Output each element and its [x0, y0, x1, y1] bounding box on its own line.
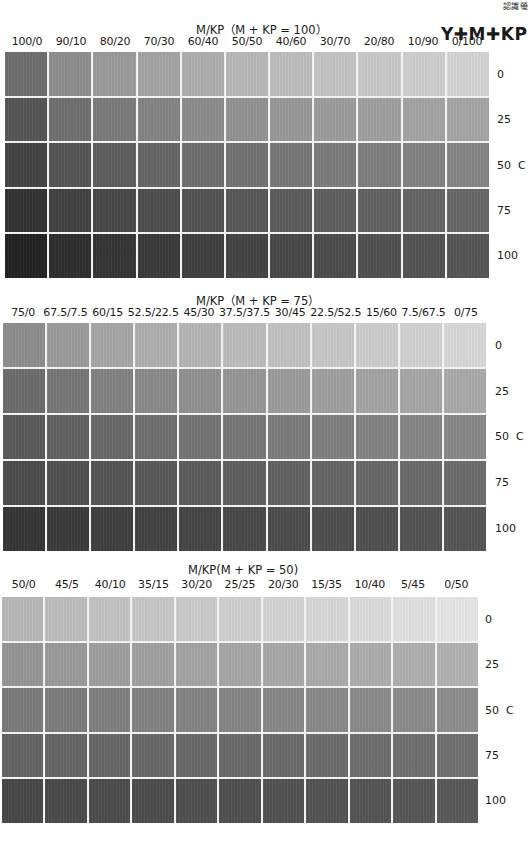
color-swatch: [356, 507, 398, 551]
color-swatch: [306, 779, 347, 823]
column-label: 60/15: [87, 306, 127, 319]
swatch-grid: [5, 52, 489, 278]
color-swatch: [400, 369, 442, 413]
color-swatch: [138, 234, 180, 278]
color-swatch: [219, 779, 260, 823]
column-labels: 75/067.5/7.560/1552.5/22.545/3037.5/37.5…: [3, 306, 486, 319]
column-label: 45/5: [45, 578, 88, 591]
row-label: 100: [497, 233, 526, 278]
color-swatch: [182, 98, 224, 142]
color-swatch: [176, 688, 217, 732]
column-label: 35/15: [132, 578, 175, 591]
color-swatch: [226, 98, 268, 142]
color-swatch: [2, 643, 43, 687]
color-swatch: [47, 369, 89, 413]
color-swatch: [314, 98, 356, 142]
color-swatch: [93, 98, 135, 142]
color-swatch: [176, 734, 217, 778]
color-swatch: [444, 369, 486, 413]
column-label: 75/0: [3, 306, 43, 319]
color-swatch: [226, 189, 268, 233]
color-swatch: [45, 779, 86, 823]
column-label: 22.5/52.5: [310, 306, 361, 319]
color-swatch: [350, 643, 391, 687]
column-label: 37.5/37.5: [219, 306, 270, 319]
color-swatch: [268, 323, 310, 367]
color-swatch: [263, 643, 304, 687]
color-swatch: [350, 734, 391, 778]
color-swatch: [91, 461, 133, 505]
color-swatch: [263, 688, 304, 732]
color-swatch: [135, 369, 177, 413]
color-swatch: [350, 597, 391, 641]
color-swatch: [91, 507, 133, 551]
color-swatch: [138, 143, 180, 187]
color-swatch: [5, 98, 47, 142]
color-swatch: [403, 143, 445, 187]
color-swatch: [138, 52, 180, 96]
color-swatch: [5, 143, 47, 187]
color-swatch: [447, 52, 489, 96]
column-label: 80/20: [93, 35, 137, 48]
color-swatch: [358, 189, 400, 233]
column-label: 45/30: [179, 306, 219, 319]
column-label: 50/0: [2, 578, 45, 591]
color-swatch: [3, 461, 45, 505]
column-label: 20/30: [262, 578, 305, 591]
color-swatch: [393, 688, 434, 732]
color-swatch: [176, 643, 217, 687]
column-label: 10/90: [401, 35, 445, 48]
color-swatch: [270, 98, 312, 142]
color-swatch: [49, 52, 91, 96]
color-swatch: [314, 52, 356, 96]
color-swatch: [437, 779, 478, 823]
column-label: 7.5/67.5: [402, 306, 446, 319]
color-swatch: [306, 734, 347, 778]
column-label: 15/60: [361, 306, 401, 319]
color-swatch: [45, 643, 86, 687]
color-swatch: [268, 461, 310, 505]
color-swatch: [182, 52, 224, 96]
row-label: 75: [485, 733, 514, 778]
row-labels: 02550 C75100: [495, 323, 524, 551]
row-label: 25: [485, 642, 514, 687]
color-swatch: [89, 688, 130, 732]
column-label: 67.5/7.5: [43, 306, 87, 319]
color-swatch: [356, 415, 398, 459]
color-swatch: [312, 369, 354, 413]
color-swatch: [182, 189, 224, 233]
color-swatch: [358, 98, 400, 142]
color-swatch: [223, 507, 265, 551]
color-swatch: [400, 415, 442, 459]
color-swatch: [403, 234, 445, 278]
color-swatch: [393, 597, 434, 641]
column-label: 25/25: [218, 578, 261, 591]
row-label: 75: [495, 460, 524, 506]
color-swatch: [2, 779, 43, 823]
color-swatch: [306, 643, 347, 687]
color-swatch: [263, 779, 304, 823]
color-swatch: [314, 234, 356, 278]
color-swatch: [45, 597, 86, 641]
color-swatch: [132, 643, 173, 687]
column-label: 40/60: [269, 35, 313, 48]
color-swatch: [403, 189, 445, 233]
row-label: 25: [497, 97, 526, 142]
section-title: M/KP(M + KP = 50): [188, 563, 298, 577]
color-swatch: [49, 234, 91, 278]
color-swatch: [358, 234, 400, 278]
row-labels: 02550 C75100: [497, 52, 526, 278]
color-swatch: [393, 779, 434, 823]
column-label: 30/70: [313, 35, 357, 48]
color-swatch: [400, 507, 442, 551]
color-swatch: [2, 734, 43, 778]
row-label: 75: [497, 188, 526, 233]
color-swatch: [444, 323, 486, 367]
color-swatch: [135, 323, 177, 367]
column-label: 30/20: [175, 578, 218, 591]
color-swatch: [226, 234, 268, 278]
column-label: 60/40: [181, 35, 225, 48]
color-swatch: [91, 369, 133, 413]
color-swatch: [93, 234, 135, 278]
color-swatch: [132, 779, 173, 823]
